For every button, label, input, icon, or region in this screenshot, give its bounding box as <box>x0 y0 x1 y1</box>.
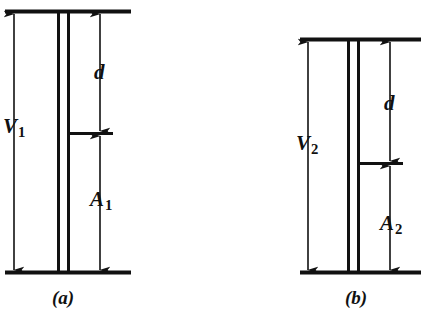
panel-b-d-label: d <box>384 93 395 114</box>
figure-container: V1 d A1 (a) V2 d A2 (b) <box>0 0 421 318</box>
panel-a-a-label-subscript: 1 <box>104 197 112 213</box>
panel-b-a-label-subscript: 2 <box>394 221 402 237</box>
panel-b-v-label-base: V <box>296 131 310 155</box>
panel-b-caption: (b) <box>345 288 367 307</box>
panel-b-v-label: V2 <box>296 133 318 157</box>
panel-b-a-label-base: A <box>380 211 394 235</box>
panel-a-graphics <box>5 11 131 273</box>
panel-a-a-label: A1 <box>90 189 112 213</box>
panel-a-v-label-subscript: 1 <box>17 124 25 140</box>
panel-a-caption: (a) <box>52 288 74 307</box>
panel-a-v-label-base: V <box>3 114 17 138</box>
panel-b-v-label-subscript: 2 <box>310 141 318 157</box>
panel-a-a-label-base: A <box>90 187 104 211</box>
panel-b-a-label: A2 <box>380 213 402 237</box>
figure-line-art <box>0 0 421 318</box>
panel-a-d-label: d <box>94 62 105 83</box>
panel-a-v-label: V1 <box>3 116 25 140</box>
